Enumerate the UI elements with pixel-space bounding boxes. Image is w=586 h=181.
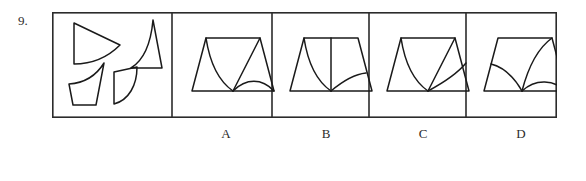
outer-frame (53, 13, 556, 117)
option-label-a[interactable]: A (206, 124, 246, 144)
option-label-d[interactable]: D (501, 124, 541, 144)
option-a-bottom-right-convex-arc (233, 81, 274, 91)
figure-svg (52, 12, 557, 118)
panel-frame-group (53, 13, 556, 117)
option-c-figure (387, 38, 469, 91)
figure-panel-strip (52, 12, 557, 118)
option-d-figure (484, 38, 557, 91)
option-b-right-convex-arc (331, 73, 366, 91)
option-a-figure (192, 38, 274, 91)
piece-concave-sided-spike-triangle (131, 20, 162, 68)
option-d-bottom-convex-arc (522, 82, 557, 91)
option-label-b[interactable]: B (306, 124, 346, 144)
question-number: 9. (18, 14, 28, 27)
option-b-left-concave-curve (304, 38, 331, 91)
option-c-bottom-right-concave-arc (428, 63, 466, 91)
puzzle-figure: 9. (0, 0, 586, 181)
option-b-figure (290, 38, 372, 91)
option-c-left-concave-curve (401, 38, 428, 91)
stimulus-panel (69, 20, 162, 105)
option-c-outline (387, 38, 469, 91)
option-a-left-concave-curve (206, 38, 233, 91)
option-d-left-short-curve (491, 64, 522, 91)
option-label-c[interactable]: C (403, 124, 443, 144)
piece-wedge-with-concave-base (74, 23, 120, 64)
option-label-row: A B C D (52, 124, 557, 148)
piece-curved-top-quadrilateral (69, 63, 104, 105)
piece-quarter-disc-sector (114, 67, 137, 104)
